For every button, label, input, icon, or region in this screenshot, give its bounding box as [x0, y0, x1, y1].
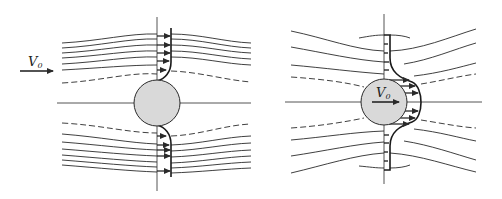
left-upper-streamlines — [62, 34, 251, 83]
right-panel: V0 — [285, 14, 482, 184]
left-panel: V0 — [20, 17, 251, 191]
left-lower-streamlines — [62, 123, 251, 173]
left-velocity-label: V0 — [28, 54, 42, 70]
right-upper-streamlines — [291, 29, 476, 87]
right-lower-streamlines — [291, 118, 476, 173]
figure-canvas: V0 — [0, 0, 502, 199]
left-sphere — [134, 80, 180, 126]
